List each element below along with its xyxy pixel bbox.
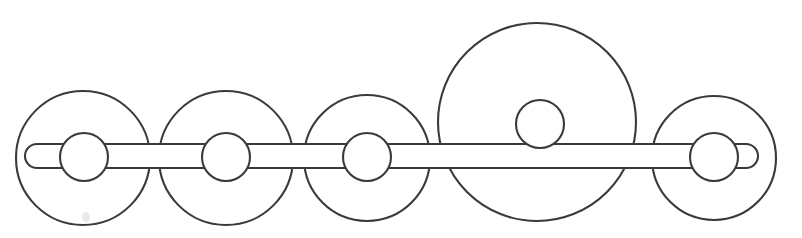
wheel-outline-group xyxy=(16,23,776,225)
paper-smudge xyxy=(82,212,90,222)
wheel-5-hub xyxy=(690,133,738,181)
wheel-3-hub xyxy=(343,133,391,181)
wheel-2-hub xyxy=(202,133,250,181)
wheel-1-hub xyxy=(60,133,108,181)
technical-line-drawing xyxy=(0,0,802,238)
drawing-canvas: Schematic line drawing of a five-wheel a… xyxy=(0,0,802,238)
wheel-4-hub xyxy=(516,100,564,148)
